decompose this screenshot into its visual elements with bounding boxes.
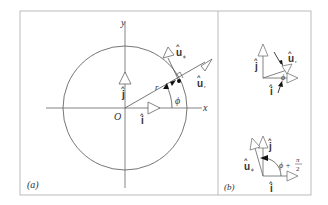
- j-unit-label: j: [121, 89, 125, 100]
- panel-a: y x O r ϕ ^ i ^ j ^ u r ^ u ϕ (a): [27, 17, 212, 191]
- particle-point: [177, 79, 181, 83]
- angle-numerator: π: [296, 156, 300, 164]
- x-axis-label: x: [202, 102, 208, 113]
- j-arrowhead: [258, 44, 268, 56]
- uphi-unit-label: u: [244, 161, 250, 172]
- radius-label: r: [155, 82, 159, 92]
- uphi-subscript: ϕ: [183, 54, 186, 59]
- ur-unit-label: u: [197, 78, 203, 89]
- j-unit-label: j: [268, 141, 272, 152]
- j-arrowhead: [119, 72, 131, 84]
- angle-arc-arrowhead: [260, 155, 268, 161]
- polar-unit-vectors-figure: y x O r ϕ ^ i ^ j ^ u r ^ u ϕ (a) ϕ ^ j …: [0, 0, 328, 205]
- panel-a-label: (a): [27, 179, 39, 191]
- ur-arrowhead: [201, 59, 212, 71]
- panel-b-bottom: ^ j ^ u ϕ ϕ + π 2 ^ i (b): [224, 136, 302, 194]
- i-arrowhead: [148, 102, 160, 114]
- i-unit-label: i: [141, 115, 144, 126]
- ur-subscript: r: [295, 59, 297, 64]
- pointer-ur: [274, 52, 281, 64]
- phi-label: ϕ: [175, 95, 180, 106]
- panel-b-label: (b): [224, 182, 235, 192]
- phi-label: ϕ: [281, 73, 285, 82]
- i-unit-label: i: [270, 86, 273, 97]
- i-unit-label: i: [270, 183, 273, 194]
- uphi-arrowhead: [163, 47, 174, 58]
- panel-b-top: ϕ ^ j ^ i ^ u r: [254, 44, 298, 97]
- uphi-subscript: ϕ: [251, 167, 254, 172]
- angle-label: ϕ +: [279, 161, 291, 170]
- ur-subscript: r: [204, 84, 206, 89]
- radius-line: [125, 62, 205, 108]
- phi-small-arrow: [170, 80, 176, 86]
- pointer-ur-head: [279, 60, 283, 66]
- i-arrowhead: [287, 73, 298, 83]
- angle-denominator: 2: [296, 165, 300, 173]
- uphi-unit-label: u: [176, 47, 182, 58]
- y-axis-label: y: [120, 17, 126, 28]
- j-unit-label: j: [254, 61, 258, 72]
- uphi-line: [168, 58, 179, 81]
- ur-unit-label: u: [288, 53, 294, 64]
- uphi-line: [255, 148, 263, 176]
- origin-label: O: [114, 111, 121, 122]
